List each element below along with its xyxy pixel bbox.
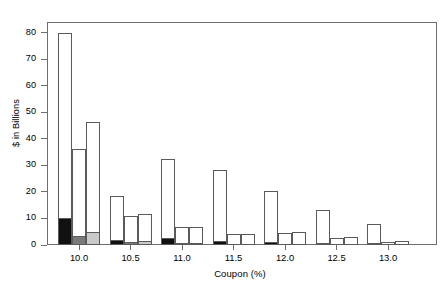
y-tick-label: 40 [0,133,36,144]
bar [241,234,255,245]
y-tick-label: 20 [0,186,36,197]
bar-base-segment [87,232,99,244]
x-tick-label: 12.5 [315,252,359,263]
x-tick-label: 12.0 [263,252,307,263]
bar [316,210,330,245]
bar-base-segment [111,240,123,244]
bar [213,170,227,245]
bar-base-segment [176,243,188,244]
bar [367,224,381,245]
x-axis-title: Coupon (%) [40,268,440,279]
bar [344,237,358,245]
y-tick-label: 60 [0,80,36,91]
y-tick-label: 30 [0,159,36,170]
bar [292,232,306,245]
bar [124,216,138,245]
bar [86,122,100,245]
bar [395,241,409,246]
x-tick-mark [130,245,131,250]
bar-base-segment [190,243,202,244]
bar [161,159,175,245]
x-tick-label: 11.5 [212,252,256,263]
bar [175,227,189,245]
bar [264,191,278,245]
bars-layer [47,22,437,245]
y-tick-label: 50 [0,106,36,117]
x-tick-mark [285,245,286,250]
bar-base-segment [73,236,85,244]
x-tick-label: 11.0 [160,252,204,263]
bar [58,33,72,245]
x-tick-mark [388,245,389,250]
bar [110,196,124,245]
x-tick-label: 13.0 [366,252,410,263]
bar-base-segment [59,218,71,244]
x-tick-mark [336,245,337,250]
bar-base-segment [139,241,151,244]
x-tick-mark [79,245,80,250]
bar-base-segment [317,243,329,244]
y-tick-label: 0 [0,239,36,250]
bar-chart: $ in Billions 01020304050607080 10.010.5… [0,0,448,289]
bar [330,238,344,245]
y-tick-label: 10 [0,212,36,223]
bar [189,227,203,245]
y-tick-label: 80 [0,27,36,38]
bar [278,233,292,245]
y-tick-label: 70 [0,53,36,64]
x-tick-label: 10.0 [57,252,101,263]
bar-base-segment [214,241,226,244]
x-tick-mark [182,245,183,250]
bar-base-segment [368,243,380,244]
x-tick-label: 10.5 [109,252,153,263]
bar-base-segment [162,238,174,244]
bar [138,214,152,245]
bar [227,234,241,245]
x-tick-mark [233,245,234,250]
bar [381,242,395,245]
bar [72,149,86,245]
bar-base-segment [125,242,137,244]
bar-base-segment [265,242,277,244]
